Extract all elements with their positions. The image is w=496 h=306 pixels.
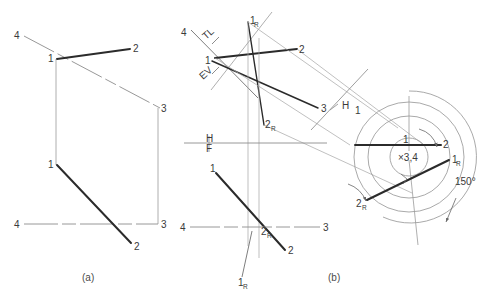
svg-text:R: R — [267, 232, 272, 239]
panel-b-label-1R-lower: 1 R — [238, 277, 248, 290]
panel-b-aux-line-1-3 — [212, 61, 318, 108]
panel-b-label-1-aux: 1 — [205, 55, 211, 66]
rotation-label-1R: 1 R — [452, 154, 461, 167]
panel-b: 1 2 1 R 2 R ×3,4 150° 4 TL EV 1 R 1 2 3 … — [180, 12, 476, 290]
panel-b-label-2-aux: 2 — [299, 44, 305, 55]
rotation-angle-arrow — [446, 198, 456, 222]
panel-a-label-1-mid: 1 — [48, 159, 54, 170]
panel-a-label-1-top: 1 — [48, 53, 54, 64]
rotation-axis-vertical-lower — [409, 160, 418, 245]
panel-a-line-1-2-front — [57, 165, 131, 243]
panel-a-label-2-top: 2 — [133, 43, 139, 54]
descriptive-geometry-drawing: 4 2 1 3 1 4 3 2 (a) — [0, 0, 496, 306]
rotation-construction: 1 2 1 R 2 R ×3,4 150° — [348, 91, 476, 245]
panel-a-label-2-bottom: 2 — [134, 241, 140, 252]
panel-b-label-2R-aux: 2 R — [265, 119, 276, 132]
panel-b-fold-label-H: H — [342, 100, 349, 111]
rotation-line-1R-2R — [367, 160, 449, 200]
panel-b-label-3-lower: 3 — [323, 222, 329, 233]
panel-b-label-2-lower: 2 — [288, 245, 294, 256]
panel-b-projector-1 — [215, 58, 350, 145]
panel-a-line-4-3-upper — [24, 36, 160, 108]
panel-b-lower-line-2R-1R — [242, 231, 252, 277]
rotation-label-2: 2 — [443, 139, 449, 150]
panel-b-label-1R-top: 1 R — [250, 15, 259, 28]
svg-text:R: R — [456, 160, 461, 167]
panel-b-fold-tick-tl — [212, 37, 219, 44]
panel-a-label-3-right: 3 — [161, 103, 167, 114]
panel-b-label-TL: TL — [200, 25, 216, 41]
panel-b-aux-line-1R-2R — [248, 22, 264, 125]
panel-b-label-2R-lower: 2 R — [261, 226, 272, 239]
panel-a-line-1-2-top — [57, 49, 130, 59]
panel-b-ref-line-upper — [211, 12, 272, 90]
panel-b-fold-label-HF-F: F — [206, 143, 212, 154]
panel-b-label-1-lower: 1 — [210, 163, 216, 174]
panel-b-fold-line-H-1 — [311, 69, 368, 130]
panel-a-caption: (a) — [82, 272, 94, 283]
panel-b-caption: (b) — [328, 272, 340, 283]
svg-text:R: R — [271, 125, 276, 132]
panel-b-aux-line-1-2 — [215, 49, 297, 58]
panel-b-label-3-aux: 3 — [321, 103, 327, 114]
panel-a-label-3-bottom: 3 — [161, 219, 167, 230]
figure-root: 4 2 1 3 1 4 3 2 (a) — [0, 0, 496, 306]
svg-text:R: R — [243, 283, 248, 290]
panel-a: 4 2 1 3 1 4 3 2 (a) — [14, 30, 167, 283]
panel-b-label-4-lower: 4 — [180, 222, 186, 233]
rotation-angle-label: 150° — [455, 176, 476, 187]
panel-b-label-EV: EV — [197, 64, 215, 81]
rotation-center-label: ×3,4 — [398, 152, 418, 163]
panel-b-label-4: 4 — [181, 27, 187, 38]
svg-text:R: R — [254, 21, 259, 28]
panel-a-label-4-top: 4 — [14, 30, 20, 41]
svg-text:R: R — [362, 204, 367, 211]
panel-b-fold-label-1: 1 — [355, 105, 361, 116]
rotation-label-1: 1 — [403, 134, 409, 145]
panel-a-label-4-bottom: 4 — [14, 219, 20, 230]
